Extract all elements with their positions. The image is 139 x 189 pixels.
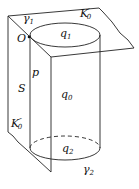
label-p: p [32, 66, 39, 79]
cylinder-planes-diagram: γ1 K′0 O q1 p S q0 K″0 q2 γ2 [0, 0, 139, 189]
label-o: O [17, 32, 26, 45]
point-o [28, 36, 31, 39]
label-s: S [18, 82, 26, 95]
plane-k0-double-prime [8, 16, 51, 172]
label-q0: q0 [61, 88, 73, 102]
label-gamma2: γ2 [83, 163, 95, 177]
label-q1: q1 [60, 27, 72, 41]
label-k0-double-prime: K″0 [10, 117, 23, 131]
label-q2: q2 [62, 142, 74, 156]
